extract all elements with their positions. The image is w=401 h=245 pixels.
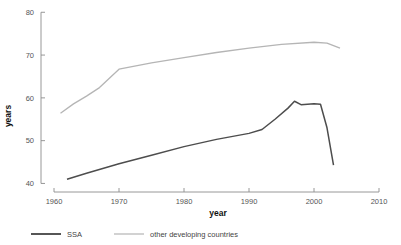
x-axis: 196019701980199020002010 [46, 188, 388, 206]
series-line [67, 101, 334, 179]
x-axis-title: year [209, 208, 227, 218]
y-axis: 4050607080 [26, 8, 45, 188]
y-tick-label: 50 [26, 136, 34, 145]
x-tick-group: 196019701980199020002010 [46, 188, 388, 206]
y-tick-group: 4050607080 [26, 8, 45, 188]
line-chart: 4050607080 196019701980199020002010 year… [0, 0, 401, 245]
x-tick-label: 1960 [46, 197, 63, 206]
x-tick-label: 1990 [241, 197, 258, 206]
chart-figure: 4050607080 196019701980199020002010 year… [0, 0, 401, 245]
x-tick-label: 2010 [371, 197, 388, 206]
y-tick-label: 60 [26, 94, 34, 103]
y-axis-title: years [3, 105, 13, 127]
data-series-group [61, 42, 341, 179]
chart-legend: SSAother developing countries [31, 230, 238, 239]
y-tick-label: 40 [26, 179, 34, 188]
y-tick-label: 70 [26, 51, 34, 60]
x-tick-label: 2000 [306, 197, 323, 206]
x-tick-label: 1980 [176, 197, 193, 206]
y-tick-label: 80 [26, 8, 34, 17]
legend-label: other developing countries [150, 230, 238, 239]
x-tick-label: 1970 [111, 197, 128, 206]
legend-label: SSA [67, 230, 82, 239]
